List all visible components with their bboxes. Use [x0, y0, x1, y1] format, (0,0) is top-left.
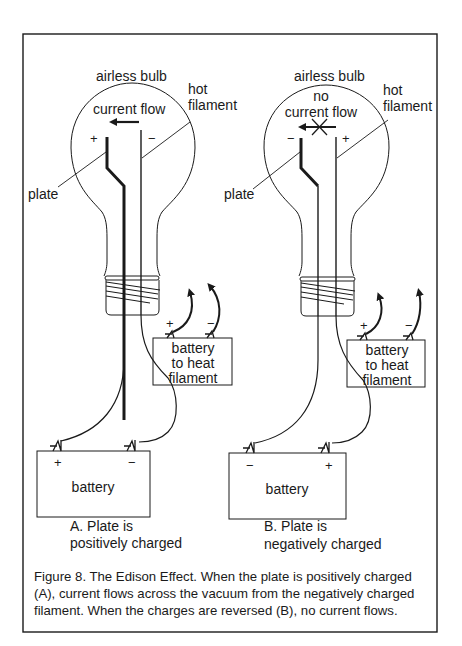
- plate-a-leader: [58, 152, 106, 187]
- figure-canvas: airless bulb hot filament current flow p…: [0, 0, 462, 646]
- heater-battery-a-terminals: [165, 331, 214, 338]
- bulb-a-label: airless bulb: [96, 68, 167, 84]
- heater-b-label-2: to heat: [366, 357, 409, 373]
- heater-b-label-3: filament: [362, 372, 411, 388]
- panel-a-caption-2: positively charged: [70, 535, 182, 551]
- filament-a-label-1: hot: [188, 81, 208, 97]
- panel-b: airless bulb hot filament no current flo…: [224, 68, 432, 552]
- heater-a-label-3: filament: [168, 370, 217, 386]
- heater-b-pos-sign: +: [360, 318, 368, 333]
- heater-a-neg-sign: −: [207, 316, 215, 331]
- figure-caption: Figure 8. The Edison Effect. When the pl…: [34, 569, 414, 618]
- caption-line-2: (A), current flows across the vacuum fro…: [34, 586, 414, 601]
- filament-b-label-2: filament: [383, 98, 432, 114]
- main-a-left-sign: +: [54, 455, 62, 470]
- main-a-right-sign: −: [128, 455, 136, 470]
- heater-b-wire-neg: [412, 292, 420, 334]
- panel-b-caption-2: negatively charged: [264, 536, 382, 552]
- main-b-right-sign: +: [325, 458, 333, 473]
- bulb-b-screw-base: [300, 277, 355, 316]
- main-b-label: battery: [266, 481, 309, 497]
- wire-a-plate-to-battery: [61, 315, 124, 441]
- plate-a-label: plate: [28, 186, 59, 202]
- heater-a-label-2: to heat: [172, 355, 215, 371]
- main-battery-a-terminals: [50, 440, 135, 451]
- caption-line-1: Figure 8. The Edison Effect. When the pl…: [34, 569, 412, 584]
- current-flow-a-label: current flow: [93, 101, 166, 117]
- bulb-a-screw-base: [105, 276, 160, 315]
- plate-b-leader: [253, 152, 300, 189]
- plate-a-sign: +: [90, 131, 98, 146]
- heater-b-label-1: battery: [366, 342, 409, 358]
- heater-b-neg-sign: −: [405, 318, 413, 333]
- edison-effect-diagram: airless bulb hot filament current flow p…: [0, 0, 462, 646]
- main-b-left-sign: −: [246, 458, 254, 473]
- plate-b-sign: −: [287, 131, 295, 146]
- caption-line-3: filament. When the charges are reversed …: [34, 603, 398, 618]
- filament-b-sign: +: [342, 131, 350, 146]
- heater-a-wire-pos: [173, 292, 192, 332]
- main-a-label: battery: [72, 479, 115, 495]
- wire-b-plate-to-battery: [255, 316, 318, 443]
- panel-b-caption-1: B. Plate is: [264, 518, 327, 534]
- panel-a: airless bulb hot filament current flow p…: [28, 68, 237, 551]
- filament-a-label-2: filament: [188, 97, 237, 113]
- main-battery-b-terminals: [243, 442, 329, 453]
- heater-battery-b-terminals: [357, 333, 413, 340]
- panel-a-caption-1: A. Plate is: [70, 518, 133, 534]
- plate-b-label: plate: [224, 186, 255, 202]
- filament-b-label-1: hot: [383, 82, 403, 98]
- plate-b: [301, 138, 318, 186]
- plate-a: [107, 137, 124, 420]
- heater-b-wire-pos: [366, 296, 381, 334]
- no-current-label-1: no: [313, 88, 329, 104]
- no-current-label-2: current flow: [285, 104, 358, 120]
- bulb-b-label: airless bulb: [294, 68, 365, 84]
- heater-a-pos-sign: +: [166, 316, 174, 331]
- heater-a-label-1: battery: [172, 340, 215, 356]
- filament-a-sign: −: [148, 131, 156, 146]
